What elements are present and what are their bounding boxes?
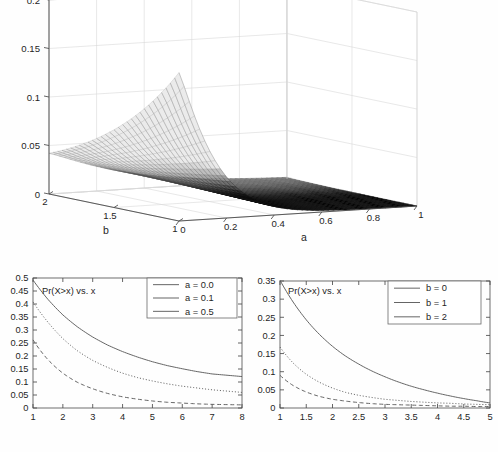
series-line (280, 375, 490, 406)
surface-plot-svg: 00.050.10.150.221.5100.20.40.60.81ab (0, 0, 498, 256)
x-tick-label: 2 (60, 412, 65, 422)
legend-label[interactable]: b = 1 (426, 298, 447, 308)
series-line (280, 347, 490, 405)
x-tick-label: 3 (90, 412, 95, 422)
surface-b-tick: 2 (42, 196, 47, 207)
x-tick-label: 7 (210, 412, 215, 422)
y-tick-label: 0.5 (16, 273, 29, 283)
y-tick-label: 0.4 (16, 299, 29, 309)
surface-z-tick: 0.15 (21, 43, 40, 54)
y-tick-label: 0.35 (257, 276, 275, 286)
y-tick-label: 0.25 (10, 338, 28, 348)
y-tick-label: 0.45 (10, 286, 28, 296)
left-line-chart-panel: 1234567800.050.10.150.20.250.30.350.40.4… (0, 256, 250, 452)
y-tick-label: 0.05 (257, 385, 275, 395)
surface-b-tick: 1.5 (103, 210, 116, 221)
surface-z-tick: 0.05 (21, 140, 40, 151)
x-tick-label: 5 (150, 412, 155, 422)
y-tick-label: 0.25 (257, 313, 275, 323)
surface-b-tick: 1 (172, 223, 177, 234)
surface-a-tick: 0.6 (319, 215, 332, 226)
legend-label[interactable]: b = 2 (426, 312, 447, 322)
surface-b-axis-name: b (103, 224, 109, 236)
x-tick-label: 1 (30, 412, 35, 422)
y-tick-label: 0.2 (263, 331, 276, 341)
x-tick-label: 2.5 (352, 412, 365, 422)
left-chart-legend[interactable]: a = 0.0a = 0.1a = 0.5 (147, 278, 237, 318)
x-tick-label: 8 (239, 412, 244, 422)
x-tick-label: 4.5 (457, 412, 470, 422)
x-tick-label: 3.5 (405, 412, 418, 422)
x-tick-label: 6 (180, 412, 185, 422)
left-chart-svg: 1234567800.050.10.150.20.250.30.350.40.4… (0, 256, 250, 452)
surface-z-tick: 0.1 (27, 92, 40, 103)
legend-label[interactable]: a = 0.1 (185, 293, 214, 303)
surface-a-tick: 1 (418, 209, 423, 220)
surface-a-tick: 0.4 (272, 218, 286, 229)
surface-a-tick: 0.2 (224, 221, 237, 232)
left-chart-annotation: Pr(X>x) vs. x (42, 286, 96, 296)
right-line-chart-panel: 11.522.533.544.5500.050.10.150.20.250.30… (248, 256, 498, 452)
legend-label[interactable]: a = 0.5 (185, 307, 214, 317)
surface-a-tick: 0.8 (367, 212, 380, 223)
x-tick-label: 3 (382, 412, 387, 422)
right-chart-annotation: Pr(X>x) vs. x (288, 286, 342, 296)
x-tick-label: 4 (435, 412, 440, 422)
series-line (33, 340, 242, 405)
x-tick-label: 2 (330, 412, 335, 422)
surface-a-tick: 0 (180, 224, 185, 235)
y-tick-label: 0.1 (16, 377, 29, 387)
y-tick-label: 0.3 (263, 294, 276, 304)
y-tick-label: 0.15 (257, 349, 275, 359)
surface-z-tick: 0 (35, 189, 40, 200)
right-chart-svg: 11.522.533.544.5500.050.10.150.20.250.30… (248, 256, 498, 452)
y-tick-label: 0.15 (10, 364, 28, 374)
x-tick-label: 4 (120, 412, 125, 422)
y-tick-label: 0 (270, 403, 275, 413)
legend-label[interactable]: b = 0 (426, 283, 447, 293)
legend-label[interactable]: a = 0.0 (185, 280, 214, 290)
surface-plot-panel: 00.050.10.150.221.5100.20.40.60.81ab (0, 0, 498, 256)
x-tick-label: 1.5 (300, 412, 313, 422)
surface-z-tick: 0.2 (27, 0, 40, 6)
figure-canvas: 00.050.10.150.221.5100.20.40.60.81ab 123… (0, 0, 498, 452)
surface-a-axis-name: a (301, 231, 307, 243)
x-tick-label: 1 (277, 412, 282, 422)
right-chart-legend[interactable]: b = 0b = 1b = 2 (388, 281, 481, 324)
y-tick-label: 0 (23, 403, 28, 413)
x-tick-label: 5 (487, 412, 492, 422)
y-tick-label: 0.1 (263, 367, 276, 377)
y-tick-label: 0.3 (16, 325, 29, 335)
y-tick-label: 0.05 (10, 390, 28, 400)
y-tick-label: 0.35 (10, 312, 28, 322)
y-tick-label: 0.2 (16, 351, 29, 361)
